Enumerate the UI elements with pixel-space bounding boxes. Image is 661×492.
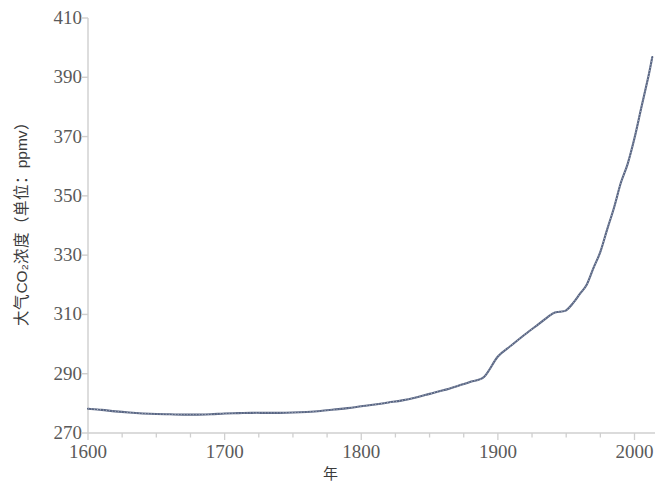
co2-concentration-chart: 大气CO₂浓度（单位：ppmv） 27029031033035037039041…: [0, 0, 661, 492]
data-series-dot-texture: [88, 57, 652, 415]
plot-area: [0, 0, 661, 492]
data-series-line: [88, 57, 652, 415]
